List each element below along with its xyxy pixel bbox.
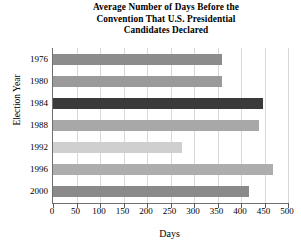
x-tick-label: 500: [270, 206, 301, 216]
chart-title-line-1: Average Number of Days Before the: [38, 2, 294, 14]
bar-1988: [53, 120, 259, 131]
bar-1992: [53, 142, 182, 153]
chart-title-line-2: Convention That U.S. Presidential: [38, 14, 294, 26]
plot-area: [52, 48, 288, 204]
x-axis-label: Days: [52, 228, 287, 239]
bar-1976: [53, 54, 222, 65]
bar-1996: [53, 164, 273, 175]
y-axis-label: Election Year: [12, 45, 22, 155]
bar-1980: [53, 76, 222, 87]
bar-1984: [53, 98, 263, 109]
chart-title-line-3: Candidates Declared: [38, 25, 294, 37]
y-tick-label-2000: 2000: [12, 186, 48, 197]
bar-chart: Average Number of Days Before the Conven…: [0, 0, 301, 249]
x-axis-tick-labels: 050100150200250300350400450500: [52, 206, 287, 220]
y-tick-label-1996: 1996: [12, 164, 48, 175]
bar-series: [53, 48, 288, 203]
gridline: [288, 48, 289, 203]
bar-2000: [53, 186, 249, 197]
chart-title: Average Number of Days Before the Conven…: [38, 2, 294, 37]
